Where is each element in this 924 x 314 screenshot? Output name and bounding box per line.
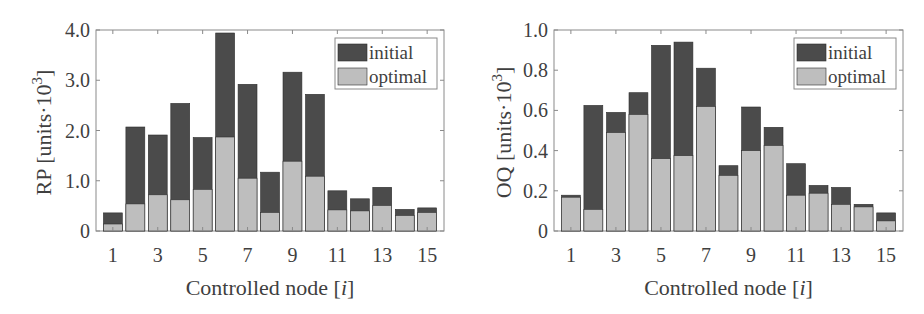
legend: initialoptimal (335, 38, 437, 89)
y-tick-label: 1.0 (65, 170, 90, 192)
bar-optimal-12 (350, 211, 369, 231)
x-tick-label: 13 (372, 244, 392, 266)
bar-optimal-7 (238, 178, 257, 231)
y-tick-label: 3.0 (65, 69, 90, 91)
x-tick-label: 15 (417, 244, 437, 266)
x-axis-label: Controlled node [i] (644, 275, 813, 300)
legend-label-optimal: optimal (369, 66, 427, 87)
legend-label-initial: initial (828, 42, 872, 63)
bar-optimal-6 (674, 156, 693, 231)
legend: initialoptimal (794, 38, 896, 89)
bar-optimal-10 (764, 145, 783, 231)
y-tick-label: 0.4 (523, 140, 548, 162)
y-tick-label: 0 (80, 220, 90, 242)
bar-optimal-3 (148, 195, 167, 231)
y-tick-label: 4.0 (65, 19, 90, 41)
x-tick-label: 1 (566, 244, 576, 266)
oq-bar-chart: 00.20.40.60.81.013579111315Controlled no… (462, 0, 924, 314)
x-tick-label: 11 (328, 244, 347, 266)
bar-optimal-10 (306, 176, 325, 231)
bar-optimal-2 (584, 209, 603, 231)
x-tick-label: 13 (831, 244, 851, 266)
bar-optimal-8 (261, 212, 280, 231)
bar-optimal-5 (652, 159, 671, 231)
legend-label-optimal: optimal (828, 66, 886, 87)
bar-optimal-2 (126, 204, 145, 231)
y-tick-label: 0.6 (523, 99, 548, 121)
x-tick-label: 11 (786, 244, 805, 266)
rp-bar-chart: 01.02.03.04.013579111315Controlled node … (0, 0, 462, 314)
legend-swatch-optimal (797, 68, 826, 85)
bar-optimal-12 (809, 193, 828, 231)
x-tick-label: 3 (611, 244, 621, 266)
legend-swatch-initial (797, 44, 826, 61)
legend-label-initial: initial (369, 42, 413, 63)
x-tick-label: 3 (153, 244, 163, 266)
bar-optimal-14 (854, 207, 873, 231)
x-axis-label: Controlled node [i] (186, 275, 355, 300)
bar-optimal-13 (832, 204, 851, 231)
y-tick-label: 0.2 (523, 180, 548, 202)
y-tick-label: 1.0 (523, 19, 548, 41)
x-tick-label: 7 (243, 244, 253, 266)
y-tick-label: 2.0 (65, 120, 90, 142)
bar-optimal-5 (193, 189, 212, 231)
x-tick-label: 5 (656, 244, 666, 266)
bar-optimal-4 (629, 114, 648, 231)
bar-optimal-3 (607, 133, 626, 232)
y-axis-label: RP [units·103] (29, 70, 56, 196)
y-tick-label: 0.8 (523, 59, 548, 81)
bar-optimal-9 (742, 151, 761, 231)
bar-optimal-8 (719, 175, 738, 231)
x-tick-label: 7 (701, 244, 711, 266)
legend-swatch-optimal (338, 68, 367, 85)
bar-optimal-4 (171, 200, 190, 231)
x-tick-label: 5 (198, 244, 208, 266)
legend-swatch-initial (338, 44, 367, 61)
bar-optimal-6 (216, 137, 235, 231)
x-tick-label: 9 (746, 244, 756, 266)
bar-optimal-7 (697, 106, 716, 231)
bar-optimal-1 (561, 197, 580, 231)
bar-optimal-9 (283, 161, 302, 231)
x-tick-label: 15 (876, 244, 896, 266)
bar-optimal-11 (787, 195, 806, 231)
y-axis-label: OQ [units·103] (489, 67, 516, 199)
x-tick-label: 9 (287, 244, 297, 266)
bar-optimal-14 (395, 215, 414, 231)
x-tick-label: 1 (108, 244, 118, 266)
figure: 01.02.03.04.013579111315Controlled node … (0, 0, 924, 314)
y-tick-label: 0 (538, 220, 548, 242)
